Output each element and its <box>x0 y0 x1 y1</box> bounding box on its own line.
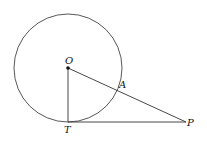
label-p: P <box>187 118 194 128</box>
label-o: O <box>65 56 73 66</box>
segment-op <box>68 68 186 122</box>
diagram-canvas <box>0 0 207 141</box>
center-point-o <box>66 66 70 70</box>
geometry-diagram: O A T P <box>0 0 207 141</box>
label-a: A <box>119 80 126 90</box>
label-t: T <box>64 125 71 135</box>
